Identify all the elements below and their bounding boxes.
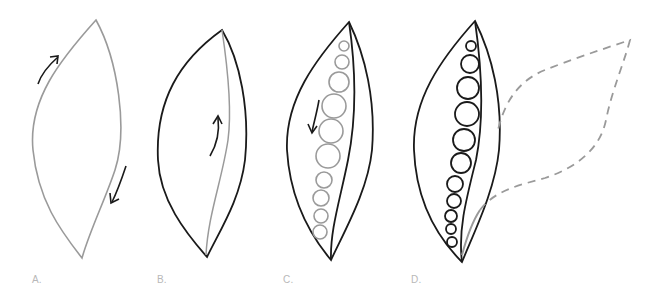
pod-outline-b <box>158 30 247 257</box>
label-panel-b: B. <box>157 274 167 285</box>
label-panel-a: A. <box>32 274 42 285</box>
pod-outline-d <box>414 21 500 262</box>
panel-a <box>32 20 126 258</box>
panel-c <box>287 22 373 260</box>
open-half-dashed-outline <box>480 40 630 210</box>
label-panel-c: C. <box>283 274 293 285</box>
arrow-up-icon <box>210 118 219 156</box>
pod-outline-a <box>32 20 120 258</box>
seam-line-c <box>331 22 354 260</box>
stem-stroke <box>462 210 480 255</box>
pod-outline-c <box>287 22 373 260</box>
peas-black <box>445 41 479 247</box>
label-panel-d: D. <box>411 274 421 285</box>
pea-pod-diagram <box>0 0 659 306</box>
panel-d <box>414 21 630 262</box>
peas-gray <box>313 41 349 239</box>
panel-b <box>158 30 247 257</box>
